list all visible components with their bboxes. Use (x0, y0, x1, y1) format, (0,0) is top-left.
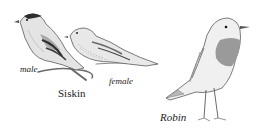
female-siskin (64, 28, 158, 66)
siskin-caption: Siskin (58, 88, 86, 99)
male-label: male (20, 65, 38, 74)
robin (166, 18, 250, 121)
female-label: female (109, 77, 133, 86)
robin-caption: Robin (160, 112, 186, 123)
bird-illustration (0, 0, 266, 138)
